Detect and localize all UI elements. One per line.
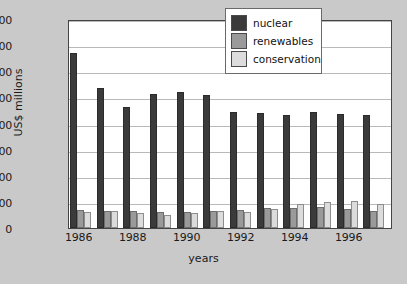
x-tick-1988: 1988: [119, 231, 146, 244]
legend-swatch-renewables: [231, 33, 247, 49]
legend-label-renewables: renewables: [253, 35, 313, 47]
chart-legend: nuclearrenewablesconservation: [225, 8, 322, 74]
legend-swatch-conservation: [231, 51, 247, 67]
x-tick-1986: 1986: [65, 231, 92, 244]
x-tick-1996: 1996: [335, 231, 362, 244]
legend-label-nuclear: nuclear: [253, 17, 292, 29]
bar-chart-figure: 010002000300040005000600070008000 US$ mi…: [0, 0, 407, 284]
legend-label-conservation: conservation: [253, 53, 321, 65]
x-axis-tick-labels: 198619881990199219941996: [0, 0, 407, 284]
x-axis-label: years: [0, 252, 407, 265]
legend-item-nuclear: nuclear: [231, 15, 316, 31]
x-tick-1990: 1990: [173, 231, 200, 244]
legend-item-renewables: renewables: [231, 33, 316, 49]
legend-swatch-nuclear: [231, 15, 247, 31]
x-tick-1992: 1992: [227, 231, 254, 244]
legend-item-conservation: conservation: [231, 51, 316, 67]
x-tick-1994: 1994: [281, 231, 308, 244]
